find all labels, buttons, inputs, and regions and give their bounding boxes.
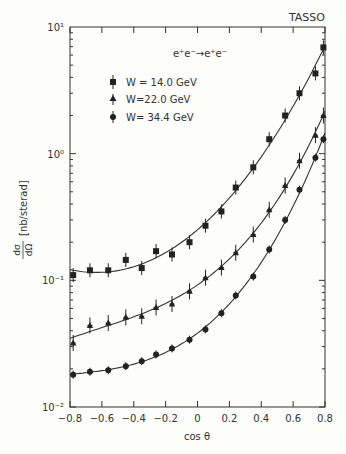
legend-label-22gev: W=22.0 GeV <box>126 94 191 105</box>
data-point-triangle <box>218 260 224 276</box>
x-tick-label: 0.8 <box>317 413 333 424</box>
x-tick-label: 0.2 <box>221 413 237 424</box>
y-label-units: [nb/sterad] <box>18 180 29 236</box>
chart-canvas: 10⁻²10⁻¹10⁰10¹ −0.8−0.6−0.4−0.200.20.40.… <box>0 0 346 454</box>
y-tick-label: 10⁰ <box>47 149 64 160</box>
process-annotation: e⁺e⁻→e⁺e⁻ <box>173 48 227 59</box>
legend: W = 14.0 GeV W=22.0 GeV W= 34.4 GeV <box>110 75 197 123</box>
plot-frame <box>70 27 325 407</box>
data-point-circle <box>233 291 239 299</box>
data-point-triangle <box>153 300 159 316</box>
x-tick-label: 0.6 <box>285 413 301 424</box>
data-point-square <box>153 244 159 258</box>
data-point-triangle <box>123 309 129 325</box>
data-point-square <box>250 160 256 174</box>
data-point-triangle <box>105 315 111 331</box>
x-tick-label: 0 <box>194 413 200 424</box>
data-point-circle <box>105 366 111 374</box>
data-point-circle <box>70 371 76 379</box>
y-label-denominator: dΩ <box>24 244 34 257</box>
legend-label-14gev: W = 14.0 GeV <box>126 77 197 88</box>
data-point-circle <box>312 154 318 162</box>
fit-curve <box>70 111 325 338</box>
data-point-triangle <box>250 227 256 243</box>
data-point-square <box>87 263 93 277</box>
legend-marker-circle-icon <box>110 111 116 123</box>
legend-marker-triangle-icon <box>110 94 117 105</box>
fit-curve <box>70 133 325 374</box>
y-tick-label: 10⁻² <box>42 402 64 413</box>
x-tick-label: −0.6 <box>90 413 114 424</box>
data-point-circle <box>87 368 93 376</box>
y-label-numerator: dσ <box>12 244 22 256</box>
legend-label-34gev: W= 34.4 GeV <box>126 112 194 123</box>
data-point-circle <box>250 273 256 281</box>
data-point-square <box>282 109 288 123</box>
data-point-triangle <box>312 127 318 143</box>
experiment-label: TASSO <box>288 11 325 24</box>
x-tick-label: −0.8 <box>58 413 82 424</box>
data-point-square <box>105 263 111 277</box>
data-point-triangle <box>202 270 208 286</box>
data-point-triangle <box>186 283 192 299</box>
y-tick-label: 10⁻¹ <box>42 275 64 286</box>
data-point-triangle <box>320 108 326 124</box>
legend-marker-square-icon <box>110 75 116 89</box>
data-point-circle <box>169 344 175 352</box>
data-points <box>70 40 327 378</box>
data-point-square <box>266 132 272 146</box>
data-point-square <box>123 253 129 267</box>
data-point-circle <box>297 186 303 194</box>
data-point-circle <box>202 325 208 333</box>
x-axis-label: cos θ <box>184 431 210 442</box>
y-axis-label: dσ dΩ [nb/sterad] <box>12 180 34 259</box>
y-tick-label: 10¹ <box>47 22 64 33</box>
x-tick-label: −0.4 <box>122 413 146 424</box>
data-point-circle <box>139 357 145 365</box>
x-tick-label: −0.2 <box>153 413 177 424</box>
data-point-circle <box>123 362 129 370</box>
fit-curve <box>70 46 325 272</box>
data-point-square <box>218 204 224 218</box>
data-point-triangle <box>139 308 145 324</box>
x-tick-label: 0.4 <box>253 413 269 424</box>
data-point-triangle <box>233 245 239 261</box>
